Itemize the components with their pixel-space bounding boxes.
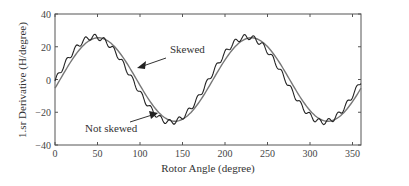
y-tick-label: 20 xyxy=(41,42,51,53)
x-axis-label: Rotor Angle (degree) xyxy=(161,162,255,175)
x-tick-label: 150 xyxy=(175,148,190,159)
y-tick-label: 40 xyxy=(41,9,51,20)
y-tick-label: −40 xyxy=(35,140,51,151)
annotation-not-skewed: Not skewed xyxy=(85,122,138,134)
x-tick-label: 350 xyxy=(345,148,360,159)
annotation-skewed: Skewed xyxy=(170,43,205,55)
not-skewed-arrow-line xyxy=(130,115,152,122)
x-tick-label: 300 xyxy=(303,148,318,159)
skewed-arrow-head-icon xyxy=(137,61,146,69)
x-tick-label: 0 xyxy=(53,148,58,159)
not-skewed-arrow-head-icon xyxy=(149,111,158,119)
x-axis-ticks: 050100150200250300350 xyxy=(53,14,361,159)
not-skewed-curve xyxy=(55,34,361,124)
x-tick-label: 100 xyxy=(133,148,148,159)
skewed-arrow-line xyxy=(143,58,166,66)
line-chart: 050100150200250300350 40200−20−40 Skewed… xyxy=(0,0,409,186)
y-tick-label: 0 xyxy=(46,75,51,86)
y-axis-label: 1.sr Derivative (H/degree) xyxy=(16,22,29,138)
x-tick-label: 250 xyxy=(260,148,275,159)
x-tick-label: 50 xyxy=(93,148,103,159)
x-tick-label: 200 xyxy=(218,148,233,159)
y-tick-label: −20 xyxy=(35,107,51,118)
